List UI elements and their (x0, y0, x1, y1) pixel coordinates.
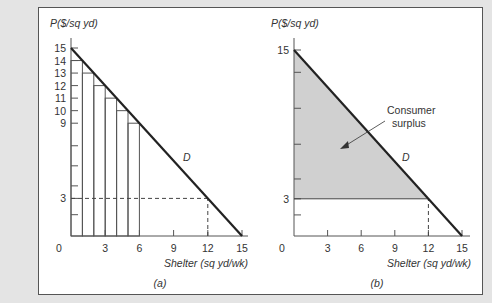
x-tick-label: 15 (236, 242, 248, 254)
x-axis-label: Shelter (sq yd/wk) (164, 257, 248, 269)
x-tick-label: 12 (202, 242, 214, 254)
panel-caption: (b) (371, 277, 384, 289)
y-tick-label: 15 (277, 44, 289, 56)
x-tick-label: 9 (171, 242, 177, 254)
y-tick-label: 3 (283, 193, 289, 205)
x-axis-label: Shelter (sq yd/wk) (387, 257, 471, 269)
y-tick-label: 9 (60, 117, 66, 129)
panel-b: 153 03691215 D Consumer surplus P($/sq y… (271, 17, 471, 289)
x-tick-label: 0 (56, 242, 62, 254)
step-bar (94, 86, 105, 236)
x-tick-label: 15 (456, 242, 468, 254)
step-bar (71, 61, 82, 236)
y-tick-label: 11 (55, 92, 66, 104)
step-bar (117, 111, 128, 236)
x-tick-label: 3 (102, 242, 108, 254)
y-tick-label: 13 (54, 67, 66, 79)
step-bar (82, 73, 93, 236)
annotation-line2: surplus (392, 117, 426, 129)
x-tick-label: 0 (279, 242, 285, 254)
x-ticks: 03691215 (56, 230, 248, 254)
chart-svg: 15141312111093 03691215 D P($/sq yd) She… (0, 0, 492, 303)
demand-label: D (402, 151, 410, 163)
step-bar (105, 98, 116, 236)
demand-curve (71, 48, 242, 236)
y-tick-label: 15 (54, 42, 66, 54)
x-tick-label: 6 (136, 242, 142, 254)
panel-a: 15141312111093 03691215 D P($/sq yd) She… (50, 17, 248, 289)
x-tick-label: 3 (325, 242, 331, 254)
x-ticks: 03691215 (279, 230, 468, 254)
demand-label: D (183, 151, 191, 163)
y-tick-label: 10 (54, 105, 66, 117)
x-tick-label: 6 (358, 242, 364, 254)
annotation-line1: Consumer (387, 104, 436, 116)
y-tick-label: 12 (54, 80, 66, 92)
y-ticks: 15141312111093 (54, 42, 78, 215)
step-bar (128, 123, 139, 236)
y-tick-label: 3 (60, 192, 66, 204)
panel-caption: (a) (154, 277, 167, 289)
y-axis-label: P($/sq yd) (271, 17, 319, 29)
y-tick-label: 14 (54, 55, 66, 67)
x-tick-label: 9 (392, 242, 398, 254)
x-tick-label: 12 (423, 242, 435, 254)
y-axis-label: P($/sq yd) (50, 17, 98, 29)
